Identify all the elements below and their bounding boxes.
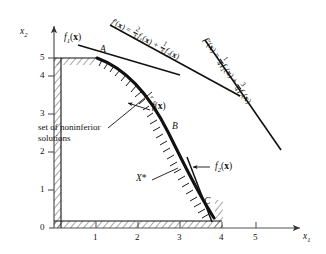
- f1-curve-label: f1(x) f1(x): [64, 32, 81, 44]
- point-label-C: C: [204, 196, 210, 206]
- noninferior-solutions-figure: x2 x2 x1 x1 0 1 2 3 4 5 1 2 3 4 5 f1(x) …: [0, 0, 326, 254]
- x-tick-1: 1: [93, 232, 98, 242]
- y-tick-0: 0: [40, 222, 45, 232]
- f2-curve-label: f2(x) f2(x): [215, 161, 232, 173]
- x-tick-4: 4: [219, 232, 224, 242]
- x-tick-3: 3: [177, 232, 182, 242]
- noninferior-frontier-curve: [97, 58, 214, 218]
- fhat-curve-label: f̂(x) f̂(x): [152, 101, 166, 111]
- x-tick-2: 2: [135, 232, 140, 242]
- annotation-noninferior-line2: solutions: [38, 133, 71, 144]
- y-tick-1: 1: [40, 184, 45, 194]
- y-tick-4: 4: [40, 70, 45, 80]
- y-tick-3: 3: [40, 108, 45, 118]
- leader-line-noninferior: [108, 92, 152, 128]
- y-axis-label: x2 x2: [20, 26, 28, 38]
- point-label-B: B: [172, 121, 178, 131]
- x-tick-5: 5: [253, 232, 258, 242]
- annotation-noninferior-line1: set of noninferior: [38, 122, 100, 133]
- y-tick-5: 5: [40, 52, 45, 62]
- feasible-region-hatching: [54, 58, 223, 228]
- x-axis-label: x1 x1: [303, 231, 311, 243]
- point-label-A: A: [100, 44, 106, 54]
- region-label-xstar: X* X*: [136, 173, 147, 183]
- leader-line-xstar: [152, 168, 178, 180]
- y-tick-2: 2: [40, 146, 45, 156]
